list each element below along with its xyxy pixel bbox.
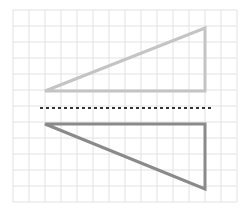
grid [13,10,237,202]
reflection-diagram [0,0,249,219]
